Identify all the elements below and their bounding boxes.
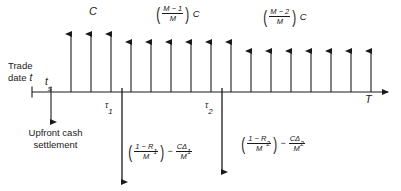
- fraction-numerator: CΔ1: [176, 143, 192, 151]
- numerator-text: 1 − R: [248, 134, 266, 143]
- accrual-fraction-2: CΔ2 M: [288, 135, 306, 153]
- maturity-label: T: [365, 94, 372, 105]
- fraction-numerator: M − 2: [269, 8, 290, 16]
- recovery-fraction-2: 1 − R2 M: [246, 135, 272, 153]
- tau1-subscript: 1: [108, 107, 112, 116]
- upfront-line1: Upfront cash: [29, 127, 83, 138]
- fraction-denominator: M: [276, 18, 284, 26]
- close-paren: ): [160, 144, 164, 159]
- figure-canvas: Trade datet ts T τ1 τ2 Upfront cash sett…: [0, 0, 401, 191]
- fraction-denominator: M: [142, 153, 150, 161]
- coupon-arrows-tier-2: [131, 42, 231, 92]
- close-paren: ): [185, 6, 189, 21]
- fraction-m-minus-1: M − 1 M: [161, 5, 184, 23]
- default-payment-formula-2: ( 1 − R2 M ) − CΔ2 M: [240, 135, 306, 153]
- tau2-label: τ2: [205, 95, 213, 111]
- fraction-numerator: CΔ2: [289, 135, 305, 143]
- default-payment-formula-1: ( 1 − R1 M ) − CΔ1 M: [127, 143, 193, 161]
- timeline-diagram: [0, 0, 401, 191]
- open-paren: (: [263, 9, 267, 24]
- fraction-denominator: M: [169, 15, 177, 23]
- close-paren: ): [273, 136, 277, 151]
- numerator-text: 1 − R: [135, 142, 153, 151]
- settlement-tick-subscript: s: [48, 84, 52, 93]
- tau2-subscript: 2: [208, 107, 212, 116]
- trade-date-symbol: t: [27, 72, 33, 83]
- coupon-label-m-minus-2: ( M − 2 M ) C: [262, 8, 307, 26]
- coupon-arrows-tier-1: [71, 34, 111, 92]
- trade-date-label: Trade datet: [8, 60, 32, 84]
- trade-date-line2: date: [8, 72, 27, 83]
- numerator-subscript: 1: [153, 148, 157, 155]
- fraction-m-minus-2: M − 2 M: [268, 8, 291, 26]
- numerator-subscript: 2: [300, 140, 304, 147]
- coupon-suffix: C: [191, 9, 200, 19]
- numerator-subscript: 1: [187, 148, 191, 155]
- tau1-label: τ1: [105, 95, 113, 111]
- fraction-numerator: 1 − R2: [247, 135, 271, 143]
- open-paren: (: [241, 136, 245, 151]
- open-paren: (: [156, 6, 160, 21]
- recovery-fraction-1: 1 − R1 M: [133, 143, 159, 161]
- upfront-settlement-label: Upfront cash settlement: [8, 127, 103, 151]
- fraction-denominator: M: [255, 145, 263, 153]
- close-paren: ): [292, 9, 296, 24]
- numerator-text: CΔ: [290, 134, 300, 143]
- upfront-line2: settlement: [34, 139, 78, 150]
- numerator-text: CΔ: [177, 142, 187, 151]
- coupon-label-m-minus-1: ( M − 1 M ) C: [155, 5, 200, 23]
- minus-operator: −: [165, 147, 174, 156]
- coupon-label-full: C: [89, 6, 97, 17]
- settlement-tick-label: ts: [45, 72, 52, 88]
- fraction-numerator: M − 1: [162, 5, 183, 13]
- trade-date-line1: Trade: [8, 60, 32, 71]
- coupon-arrows-tier-3: [251, 51, 371, 92]
- accrual-fraction-1: CΔ1 M: [175, 143, 193, 161]
- minus-operator: −: [278, 139, 287, 148]
- open-paren: (: [128, 144, 132, 159]
- fraction-numerator: 1 − R1: [134, 143, 158, 151]
- numerator-subscript: 2: [266, 140, 270, 147]
- coupon-suffix: C: [298, 12, 307, 22]
